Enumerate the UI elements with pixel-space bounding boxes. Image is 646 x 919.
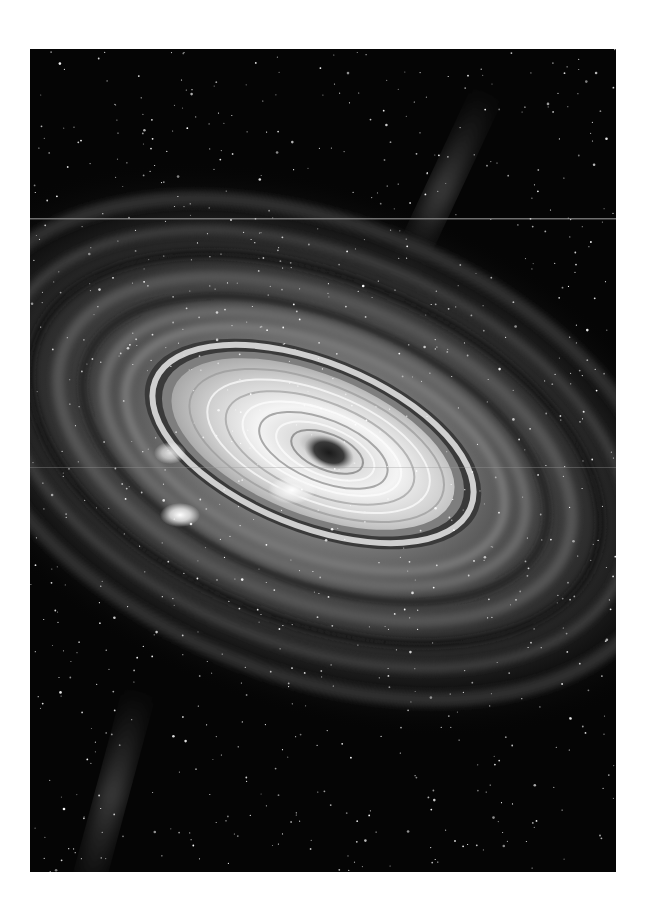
galaxy-scene [30,49,616,872]
black-hole-illustration [30,49,616,872]
